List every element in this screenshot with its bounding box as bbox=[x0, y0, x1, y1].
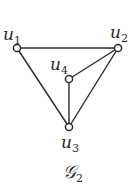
node-u2 bbox=[114, 44, 121, 51]
edge-u2-u4 bbox=[69, 48, 118, 79]
graph-caption: 𝒢2 bbox=[63, 161, 83, 185]
edge-u1-u3 bbox=[17, 48, 69, 127]
label-u3: u3 bbox=[61, 132, 79, 155]
label-u4: u4 bbox=[50, 54, 68, 77]
label-u1: u1 bbox=[3, 24, 21, 47]
node-u3 bbox=[65, 123, 72, 130]
label-u2: u2 bbox=[110, 22, 128, 45]
edge-u2-u3 bbox=[69, 48, 118, 127]
graph-diagram: u1 u2 u4 u3 𝒢2 bbox=[0, 0, 130, 188]
